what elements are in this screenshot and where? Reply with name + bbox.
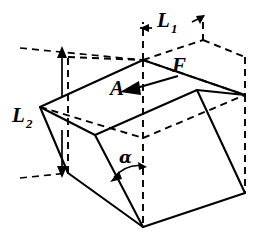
edge-left-vertical	[40, 107, 68, 173]
dim-l1-arrowhead-left	[140, 24, 149, 32]
hidden-edge-upper-right-diag	[203, 40, 245, 57]
dim-l2-arrowhead-bottom	[57, 166, 67, 178]
wedge-solid-diagram: L 1 L 2 A F α	[0, 0, 257, 239]
figure-container: L 1 L 2 A F α	[0, 0, 257, 239]
label-l2-symbol: L	[11, 103, 25, 127]
force-arrow-f	[120, 76, 178, 95]
label-force-f: F	[171, 53, 186, 77]
dimension-l2	[57, 46, 67, 178]
label-l2-subscript: 2	[25, 116, 33, 131]
label-area-a: A	[108, 76, 124, 100]
label-l1-subscript: 1	[171, 21, 178, 36]
label-angle-alpha: α	[119, 147, 132, 167]
bounding-box-hidden-edges	[20, 22, 245, 227]
edge-left-bottom	[68, 173, 143, 227]
label-l1-symbol: L	[156, 8, 170, 32]
hidden-edge-top-face-right	[143, 95, 245, 138]
edge-bottom-right	[143, 193, 245, 227]
